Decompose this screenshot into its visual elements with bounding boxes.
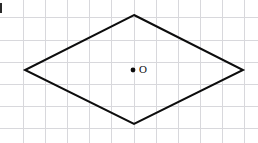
edge-artifact-mark — [0, 3, 2, 13]
shape-layer: O — [0, 0, 258, 143]
center-point-label: O — [139, 63, 147, 75]
center-point-dot — [131, 68, 136, 73]
figure-canvas: O — [0, 0, 258, 143]
